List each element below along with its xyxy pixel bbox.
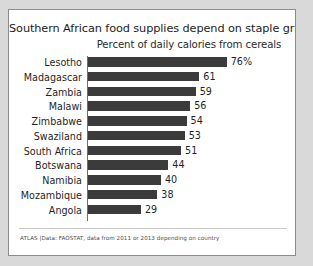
bar — [88, 160, 168, 170]
bar-row: Mozambique38 — [9, 189, 296, 204]
category-label: Zambia — [8, 86, 82, 99]
category-label: Namibia — [8, 174, 82, 187]
bar-value-label: 40 — [165, 174, 177, 186]
bar — [88, 116, 187, 126]
footer-divider — [19, 228, 287, 229]
bar-row: Angola29 — [9, 204, 296, 219]
bar-row: South Africa51 — [9, 145, 296, 160]
category-label: Zimbabwe — [8, 115, 82, 128]
chart-card: Southern African food supplies depend on… — [8, 9, 296, 256]
category-label: Lesotho — [8, 56, 82, 69]
bar-row: Malawi56 — [9, 100, 296, 115]
category-label: Swaziland — [8, 130, 82, 143]
bar — [88, 57, 227, 67]
bar — [88, 87, 196, 97]
category-label: Angola — [8, 204, 82, 217]
bar-value-label: 38 — [161, 189, 173, 201]
bar-value-label: 54 — [191, 115, 203, 127]
category-label: South Africa — [8, 145, 82, 158]
bar-value-label: 76% — [231, 56, 252, 68]
bar-value-label: 53 — [189, 130, 201, 142]
chart-title: Southern African food supplies depend on… — [9, 22, 296, 35]
category-label: Madagascar — [8, 71, 82, 84]
plot-area: Lesotho76%Madagascar61Zambia59Malawi56Zi… — [9, 56, 296, 221]
chart-figure: Southern African food supplies depend on… — [0, 0, 313, 266]
bar-row: Zambia59 — [9, 86, 296, 101]
bar — [88, 175, 161, 185]
bar-value-label: 56 — [194, 100, 206, 112]
bar — [88, 146, 181, 156]
bar-row: Madagascar61 — [9, 71, 296, 86]
bar-row: Namibia40 — [9, 174, 296, 189]
bar-value-label: 61 — [203, 71, 215, 83]
chart-subtitle: Percent of daily calories from cereals — [85, 39, 293, 50]
bar-value-label: 59 — [200, 86, 212, 98]
category-label: Malawi — [8, 100, 82, 113]
category-label: Botswana — [8, 159, 82, 172]
bar-row: Lesotho76% — [9, 56, 296, 71]
bar — [88, 72, 199, 82]
bar — [88, 101, 190, 111]
bar-row: Botswana44 — [9, 159, 296, 174]
bar-value-label: 51 — [185, 145, 197, 157]
bar — [88, 190, 157, 200]
bar — [88, 205, 141, 215]
bar-row: Swaziland53 — [9, 130, 296, 145]
bar — [88, 131, 185, 141]
category-label: Mozambique — [8, 189, 82, 202]
bar-row: Zimbabwe54 — [9, 115, 296, 130]
source-note: ATLAS |Data: FAOSTAT, data from 2011 or … — [20, 235, 290, 241]
bar-value-label: 44 — [172, 159, 184, 171]
bar-value-label: 29 — [145, 204, 157, 216]
